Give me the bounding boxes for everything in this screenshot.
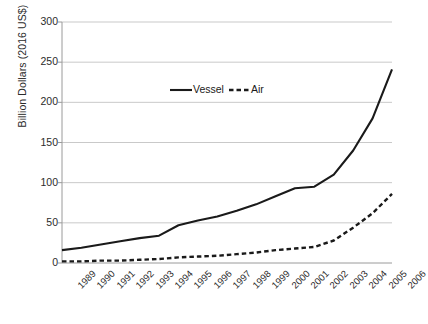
x-tick-label: 1994 (172, 268, 195, 291)
legend-label-vessel: Vessel (193, 83, 224, 95)
legend-label-air: Air (251, 83, 264, 95)
x-tick-label: 2002 (328, 268, 351, 291)
x-tick-label: 2003 (347, 268, 370, 291)
x-tick-label: 1995 (192, 268, 215, 291)
x-tick-label: 2005 (386, 268, 409, 291)
x-tick-label: 1997 (230, 268, 253, 291)
x-tick-label: 1996 (211, 268, 234, 291)
x-tick-label: 2001 (308, 268, 331, 291)
x-tick-label: 1993 (153, 268, 176, 291)
x-tick-label: 1989 (75, 268, 98, 291)
x-tick-label: 1992 (133, 268, 156, 291)
x-tick-label: 1991 (114, 268, 137, 291)
x-tick-label: 1998 (250, 268, 273, 291)
x-tick-label: 2006 (405, 268, 428, 291)
x-tick-label: 1990 (95, 268, 118, 291)
x-tick-label: 1999 (269, 268, 292, 291)
x-tick-label: 2000 (289, 268, 312, 291)
x-tick-label: 2004 (366, 268, 389, 291)
